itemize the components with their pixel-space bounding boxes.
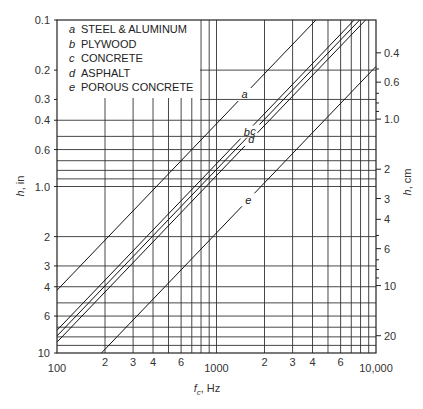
y-axis-left-label: h, in — [14, 176, 26, 197]
series-line-e — [101, 206, 241, 353]
y-right-tick-label: 20 — [384, 330, 396, 342]
x-tick-label: 4 — [309, 356, 315, 368]
y-axis-left-ticks: 0.10.20.30.40.61.0234610 — [35, 14, 57, 359]
y-right-tick-label: 0.4 — [384, 47, 399, 59]
y-left-tick-label: 0.1 — [35, 14, 50, 26]
y-left-tick-label: 2 — [44, 231, 50, 243]
y-left-tick-label: 0.6 — [35, 144, 50, 156]
chart-figure: aSTEEL & ALUMINUMbPLYWOODcCONCRETEdASPHA… — [0, 0, 423, 409]
y-left-tick-label: 3 — [44, 260, 50, 272]
x-tick-label: 6 — [338, 356, 344, 368]
y-right-tick-label: 3 — [384, 193, 390, 205]
x-tick-label: 1000 — [204, 362, 228, 374]
x-tick-label: 10,000 — [359, 362, 393, 374]
x-tick-label: 2 — [261, 356, 267, 368]
y-left-tick-label: 4 — [44, 281, 50, 293]
curve-label-e: e — [245, 194, 251, 206]
series-line-b — [253, 20, 354, 126]
legend-item-e: ePOROUS CONCRETE — [69, 81, 193, 93]
x-axis-label: fc, Hz — [194, 382, 221, 397]
legend: aSTEEL & ALUMINUMbPLYWOODcCONCRETEdASPHA… — [58, 21, 199, 93]
series-line-e — [254, 66, 376, 193]
y-right-tick-label: 6 — [384, 243, 390, 255]
series-line-c — [259, 20, 359, 125]
y-left-tick-label: 10 — [38, 347, 50, 359]
legend-item-c: cCONCRETE — [69, 52, 143, 64]
y-axis-right-ticks: 0.40.61.023461020 — [376, 47, 399, 342]
x-tick-label: 3 — [290, 356, 296, 368]
y-right-tick-label: 4 — [384, 213, 390, 225]
y-right-tick-label: 2 — [384, 163, 390, 175]
y-right-tick-label: 10 — [384, 280, 396, 292]
y-right-tick-label: 1.0 — [384, 113, 399, 125]
x-tick-label: 2 — [102, 356, 108, 368]
x-tick-label: 4 — [150, 356, 156, 368]
y-left-tick-label: 1.0 — [35, 181, 50, 193]
x-tick-label: 100 — [48, 362, 66, 374]
curve-label-d: d — [248, 133, 255, 145]
y-axis-right-label: h, cm — [401, 169, 413, 196]
series-line-b — [57, 139, 241, 331]
series-line-d — [257, 20, 365, 133]
series-line-a — [57, 101, 238, 290]
y-right-tick-label: 0.6 — [384, 76, 399, 88]
series-line-a — [251, 20, 316, 88]
y-left-tick-label: 0.2 — [35, 64, 50, 76]
y-left-tick-label: 0.3 — [35, 93, 50, 105]
x-tick-label: 6 — [178, 356, 184, 368]
x-tick-label: 3 — [130, 356, 136, 368]
curve-label-a: a — [242, 88, 248, 100]
legend-item-a: aSTEEL & ALUMINUM — [69, 23, 187, 35]
x-axis-ticks: 10023461000234610,000 — [48, 356, 393, 374]
y-left-tick-label: 0.4 — [35, 114, 50, 126]
y-left-tick-label: 6 — [44, 310, 50, 322]
